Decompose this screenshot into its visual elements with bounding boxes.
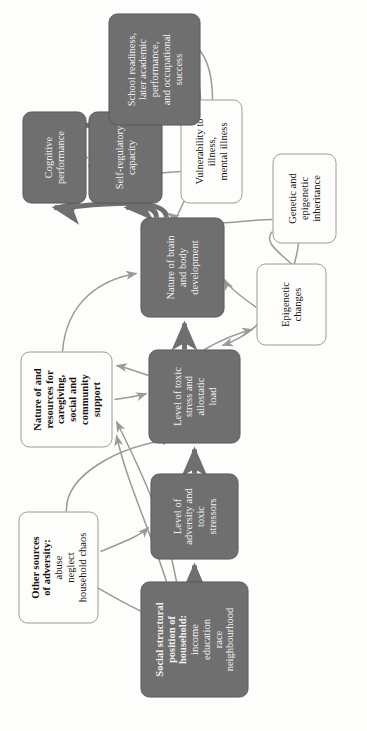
node-title-line: Other sources — [29, 536, 41, 598]
node-title-line: Social structural — [153, 602, 165, 676]
node-nature-of-brain-and-body-development[interactable]: Nature of brain and body development — [140, 217, 224, 317]
node-title-line: resources for — [43, 370, 55, 428]
node-sub-line: income — [188, 624, 200, 655]
node-sub-line: Genetic and — [286, 173, 298, 223]
node-sub-line: success — [172, 53, 184, 85]
node-sub-line: adversity and — [182, 488, 194, 544]
node-sub-line: Epigenetic — [279, 282, 291, 327]
node-sub-line: abuse — [52, 555, 64, 579]
node-sub-line: Cognitive — [42, 136, 54, 177]
node-sub-line: and occupational — [160, 33, 172, 104]
node-caregiving-social-community-support[interactable]: Nature of and resources for caregiving, … — [20, 351, 112, 447]
node-sub-line: load — [206, 387, 218, 405]
node-sub-line: performance — [54, 130, 66, 183]
node-school-readiness-outcomes[interactable]: School readiness, later academic perform… — [108, 13, 200, 125]
node-sub-line: performance, — [148, 41, 160, 97]
node-sub-line: stress and — [182, 375, 194, 416]
node-other-sources-of-adversity[interactable]: Other sources of adversity: abuse neglec… — [18, 511, 98, 623]
node-title-line: caregiving, — [54, 374, 66, 423]
node-title-line: Nature of and — [31, 368, 43, 430]
node-title-line: household: — [176, 614, 188, 663]
node-cognitive-performance[interactable]: Cognitive performance — [22, 111, 86, 203]
node-sub-line: neighbourhood — [223, 607, 235, 671]
node-sub-line: School readiness, — [125, 32, 137, 106]
node-sub-line: household chaos — [76, 532, 88, 602]
node-sub-line: changes — [291, 287, 303, 321]
node-level-of-adversity-and-toxic-stressors[interactable]: Level of adversity and toxic stressors — [150, 473, 238, 559]
node-sub-line: toxic — [194, 506, 206, 527]
node-sub-line: allostatic — [194, 377, 206, 415]
node-sub-line: Level of toxic — [171, 367, 183, 426]
node-sub-line: capacity — [125, 140, 137, 175]
node-epigenetic-changes[interactable]: Epigenetic changes — [256, 263, 326, 345]
node-genetic-and-epigenetic-inheritance[interactable]: Genetic and epigenetic inheritance — [272, 153, 336, 243]
node-sub-line: development — [188, 240, 200, 294]
node-title-line: of adversity: — [40, 539, 52, 595]
node-sub-line: Level of — [171, 498, 183, 533]
node-sub-line: and body — [176, 248, 188, 287]
node-sub-line: Nature of brain — [164, 235, 176, 299]
diagram-canvas: Social structural position of household:… — [0, 0, 367, 731]
node-sub-line: stressors — [206, 498, 218, 534]
node-sub-line: later academic — [136, 39, 148, 100]
node-title-line: position of — [165, 616, 177, 663]
node-sub-line: neglect — [64, 552, 76, 582]
node-sub-line: Self-regulatory — [113, 125, 125, 189]
node-sub-line: race — [212, 630, 224, 647]
node-sub-line: education — [200, 619, 212, 660]
node-sub-line: inheritance — [310, 175, 322, 222]
node-sub-line: mental illness — [217, 122, 229, 180]
node-level-of-toxic-stress-and-allostatic-load[interactable]: Level of toxic stress and allostatic loa… — [148, 349, 240, 443]
node-title-line: community — [78, 374, 90, 425]
node-sub-line: epigenetic — [298, 176, 310, 219]
node-social-structural-position[interactable]: Social structural position of household:… — [140, 581, 248, 697]
node-title-line: support — [90, 382, 102, 417]
node-title-line: social and — [66, 377, 78, 422]
